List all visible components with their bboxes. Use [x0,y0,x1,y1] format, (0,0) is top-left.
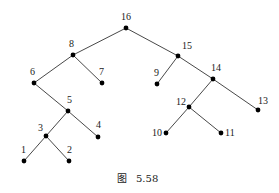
tree-edge-16-8 [73,28,126,55]
tree-node-label-10: 10 [152,127,162,138]
tree-node-label-15: 15 [182,40,192,51]
tree-node-15 [176,54,181,59]
tree-node-label-14: 14 [211,62,221,73]
tree-diagram: 16815679145121334101112 图 5.58 [0,0,279,193]
tree-node-label-5: 5 [67,94,72,105]
tree-node-6 [32,81,37,86]
tree-node-label-1: 1 [21,144,26,155]
tree-node-label-2: 2 [67,144,72,155]
tree-node-label-6: 6 [30,66,35,77]
tree-node-label-4: 4 [96,119,101,130]
figure-caption-number: 5.58 [136,173,158,184]
tree-node-4 [96,135,101,140]
tree-node-12 [187,105,192,110]
tree-edge-15-9 [157,56,178,84]
tree-edges [24,28,258,161]
tree-node-label-13: 13 [258,95,268,106]
tree-edge-3-1 [24,136,46,161]
tree-node-9 [155,82,160,87]
tree-node-label-12: 12 [176,96,186,107]
tree-node-16 [124,26,129,31]
tree-node-10 [164,131,169,136]
tree-edge-8-7 [73,55,102,83]
tree-edge-8-6 [34,55,73,83]
tree-nodes [22,26,261,164]
tree-edge-15-14 [178,56,213,79]
tree-node-label-9: 9 [154,67,159,78]
tree-node-14 [211,77,216,82]
tree-node-8 [71,53,76,58]
tree-node-2 [67,159,72,164]
tree-edge-16-15 [126,28,178,56]
tree-edge-3-2 [46,136,69,161]
tree-edge-5-3 [46,111,68,136]
tree-edge-14-13 [213,79,258,110]
tree-edge-6-5 [34,83,68,111]
figure-caption-prefix: 图 [117,173,127,184]
tree-node-1 [22,159,27,164]
tree-node-11 [219,131,224,136]
tree-node-13 [256,108,261,113]
tree-labels: 16815679145121334101112 [21,11,268,155]
tree-node-7 [100,81,105,86]
tree-node-label-7: 7 [99,66,104,77]
tree-node-label-16: 16 [121,11,131,22]
tree-node-label-11: 11 [225,127,235,138]
tree-edge-12-11 [189,107,221,133]
tree-edge-5-4 [68,111,98,137]
tree-node-3 [44,134,49,139]
tree-node-label-8: 8 [69,38,74,49]
tree-edge-14-12 [189,79,213,107]
tree-edge-12-10 [166,107,189,133]
tree-node-label-3: 3 [38,122,43,133]
tree-node-5 [66,109,71,114]
